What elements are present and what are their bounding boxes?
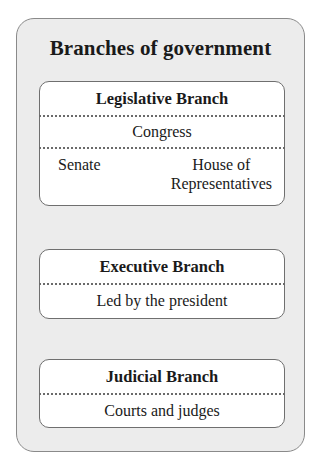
house-of-representatives-label: House of Representatives: [171, 155, 272, 193]
executive-branch-description: Led by the president: [40, 285, 284, 317]
legislative-branch-box: Legislative Branch Congress Senate House…: [39, 81, 285, 206]
congress-label: Congress: [40, 117, 284, 147]
house-label-line-2: Representatives: [171, 174, 272, 193]
judicial-branch-box: Judicial Branch Courts and judges: [39, 359, 285, 428]
branches-panel: Branches of government Legislative Branc…: [16, 18, 305, 452]
senate-label: Senate: [58, 155, 101, 193]
judicial-branch-heading: Judicial Branch: [40, 360, 284, 393]
congress-houses: Senate House of Representatives: [40, 149, 284, 193]
judicial-branch-description: Courts and judges: [40, 395, 284, 427]
executive-branch-heading: Executive Branch: [40, 250, 284, 283]
house-label-line-1: House of: [171, 155, 272, 174]
diagram-title: Branches of government: [17, 36, 304, 61]
legislative-branch-heading: Legislative Branch: [40, 82, 284, 115]
executive-branch-box: Executive Branch Led by the president: [39, 249, 285, 319]
